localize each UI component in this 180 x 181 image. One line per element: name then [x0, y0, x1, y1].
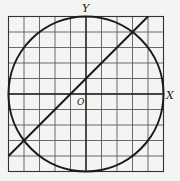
x-axis-label: X [165, 89, 175, 102]
y-axis-label: Y [82, 2, 91, 15]
circle-line-diagram: Y X O [0, 0, 180, 181]
origin-label: O [77, 97, 85, 107]
diagonal-line [9, 17, 149, 157]
